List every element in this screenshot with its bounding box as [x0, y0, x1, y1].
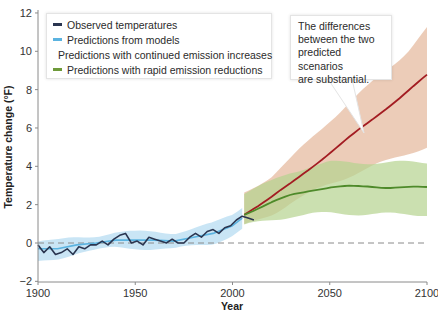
x-tick-label: 2100: [415, 287, 438, 299]
legend-item-models: Predictions from models: [53, 32, 265, 47]
x-tick-label: 2000: [220, 287, 244, 299]
callout-line: predicted scenarios: [298, 46, 384, 72]
y-tick-label: −2: [19, 275, 32, 287]
y-axis: −2024681012: [19, 7, 38, 287]
y-tick-label: 12: [20, 7, 32, 19]
legend-swatch-rapid-reductions: [53, 68, 62, 71]
y-tick-label: 4: [26, 160, 32, 172]
x-axis: 19001950200020502100: [26, 282, 438, 299]
legend-item-continued-emissions: Predictions with continued emission incr…: [53, 47, 265, 62]
annotation-callout: The differences between the two predicte…: [290, 15, 392, 80]
legend-item-rapid-reductions: Predictions with rapid emission reductio…: [53, 62, 265, 77]
y-tick-label: 8: [26, 84, 32, 96]
legend-label: Predictions from models: [67, 34, 180, 46]
x-axis-title: Year: [221, 300, 243, 312]
x-tick-label: 2050: [318, 287, 342, 299]
callout-line: between the two: [298, 33, 384, 46]
y-tick-label: 6: [26, 122, 32, 134]
legend-label: Observed temperatures: [67, 19, 177, 31]
legend-label: Predictions with continued emission incr…: [58, 49, 272, 61]
x-tick-label: 1950: [123, 287, 147, 299]
callout-line: are substantial.: [298, 73, 384, 86]
legend-swatch-observed: [53, 23, 62, 26]
rapid-reductions-band: [244, 161, 427, 225]
x-tick-label: 1900: [26, 287, 50, 299]
legend-item-observed: Observed temperatures: [53, 17, 265, 32]
legend-swatch-models: [53, 38, 62, 41]
y-tick-label: 10: [20, 45, 32, 57]
y-axis-title: Temperature change (°F): [2, 85, 14, 208]
y-tick-label: 0: [26, 237, 32, 249]
legend: Observed temperatures Predictions from m…: [46, 13, 272, 79]
legend-label: Predictions with rapid emission reductio…: [67, 64, 263, 76]
y-tick-label: 2: [26, 199, 32, 211]
callout-line: The differences: [298, 20, 384, 33]
